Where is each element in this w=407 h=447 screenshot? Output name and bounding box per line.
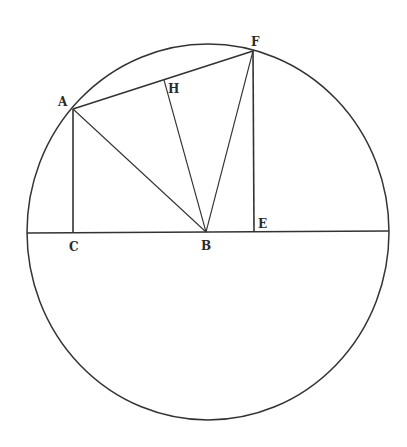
geometry-diagram <box>0 0 407 447</box>
segment-f-e <box>253 51 254 232</box>
diameter-line <box>27 231 389 233</box>
segment-f-b <box>206 51 253 232</box>
label-point-f: F <box>251 36 260 48</box>
label-point-e: E <box>258 218 267 230</box>
label-point-h: H <box>168 83 179 95</box>
label-point-b: B <box>201 240 211 252</box>
label-point-a: A <box>58 96 67 108</box>
segment-a-b <box>73 109 206 232</box>
segment-h-b <box>164 80 206 232</box>
segment-a-f <box>73 51 253 109</box>
label-point-c: C <box>69 241 79 253</box>
